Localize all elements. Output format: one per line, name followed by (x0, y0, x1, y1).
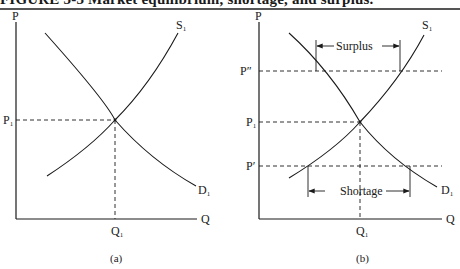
p1-label: P1 (3, 113, 14, 128)
p-double-prime-label: P″ (240, 64, 252, 78)
quantity-axis-label: Q (201, 212, 210, 226)
equilibrium-point (114, 119, 117, 122)
supply-curve (289, 35, 424, 178)
q1-label: Q1 (356, 224, 369, 239)
demand-label: D1 (441, 183, 454, 198)
p-prime-label: P′ (246, 159, 256, 173)
price-axis-label: P (12, 9, 19, 23)
panel-a-caption: (a) (110, 252, 123, 265)
supply-label: S1 (176, 18, 187, 33)
demand-label: D1 (198, 183, 211, 198)
supply-label: S1 (422, 18, 433, 33)
panel-a: P Q P1 Q1 S1 D1 (a) (3, 9, 211, 265)
shortage-label: Shortage (340, 184, 383, 198)
surplus-bracket: Surplus (316, 39, 400, 71)
equilibrium-point (359, 121, 362, 124)
figure-canvas: P Q P1 Q1 S1 D1 (a) P Q (0, 0, 460, 269)
demand-curve (45, 33, 196, 186)
price-axis-label: P (255, 9, 262, 23)
supply-curve (47, 33, 178, 176)
surplus-label: Surplus (336, 39, 373, 53)
quantity-axis-label: Q (446, 212, 455, 226)
shortage-bracket: Shortage (308, 166, 410, 198)
panel-b-caption: (b) (356, 252, 369, 265)
p1-label: P1 (246, 115, 257, 130)
panel-b: P Q Surplus Shortage P″ P1 (240, 9, 455, 265)
q1-label: Q1 (111, 224, 124, 239)
